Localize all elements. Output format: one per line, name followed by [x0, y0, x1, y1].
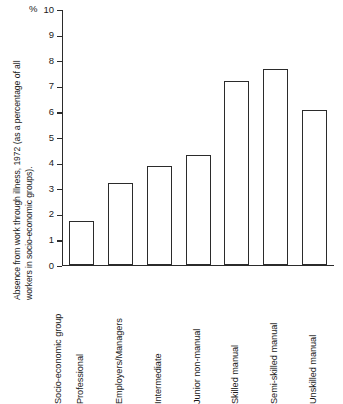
- bar: [302, 110, 327, 265]
- y-axis-tick-label: 5: [49, 132, 54, 143]
- y-axis-tick-label: 2: [49, 208, 54, 219]
- y-axis-tick-label: 10: [43, 4, 54, 15]
- y-axis-line: [62, 10, 63, 266]
- bar: [147, 166, 172, 265]
- y-axis-title-line-1: Absence from work through illness, 1972 …: [12, 60, 23, 300]
- y-axis-tick-mark: [57, 215, 62, 216]
- y-axis-title-line-2: workers in socio-economic groups).: [24, 167, 35, 300]
- y-axis-tick-label: 4: [49, 157, 54, 168]
- x-axis-category-label: Unskilled manual: [308, 335, 318, 404]
- bar: [69, 221, 94, 265]
- x-axis-category-label: Skilled manual: [230, 345, 240, 404]
- bar: [108, 183, 133, 265]
- percent-unit-symbol: %: [29, 3, 37, 14]
- bar: [263, 69, 288, 265]
- x-axis-category-label: Employers/Managers: [114, 318, 124, 404]
- y-axis-tick-label: 9: [49, 29, 54, 40]
- y-axis-tick-label: 3: [49, 183, 54, 194]
- x-axis-title: Socio-economic group: [53, 314, 63, 404]
- x-axis-category-label: Semi-skilled manual: [269, 323, 279, 404]
- bar: [224, 81, 249, 265]
- y-axis-tick-label: 8: [49, 55, 54, 66]
- y-axis-tick-mark: [57, 112, 62, 113]
- x-axis-labels: Socio-economic groupProfessionalEmployer…: [62, 266, 343, 404]
- y-axis-tick-mark: [57, 36, 62, 37]
- y-axis-tick-label: 1: [49, 234, 54, 245]
- bar: [186, 155, 211, 265]
- y-axis-tick-mark: [57, 189, 62, 190]
- chart-container: Absence from work through illness, 1972 …: [0, 0, 343, 404]
- y-axis-tick-mark: [57, 61, 62, 62]
- x-axis-category-label: Intermediate: [153, 354, 163, 404]
- y-axis-tick-mark: [57, 10, 62, 11]
- y-axis-title: Absence from work through illness, 1972 …: [0, 0, 32, 300]
- y-axis-tick-mark: [57, 164, 62, 165]
- y-axis-tick-label: 7: [49, 80, 54, 91]
- y-axis-tick-label: 0: [49, 260, 54, 271]
- y-axis-tick-mark: [57, 138, 62, 139]
- y-axis-tick-mark: [57, 240, 62, 241]
- plot-area: 109876543210: [62, 10, 334, 266]
- x-axis-category-label: Junior non-manual: [192, 329, 202, 404]
- y-axis-tick-label: 6: [49, 106, 54, 117]
- x-axis-category-label: Professional: [75, 354, 85, 404]
- y-axis-tick-mark: [57, 87, 62, 88]
